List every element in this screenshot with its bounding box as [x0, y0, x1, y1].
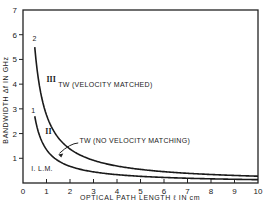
- annotation: TW (NO VELOCITY MATCHING): [79, 137, 190, 145]
- y-tick-label: 7: [13, 6, 18, 15]
- x-tick-label: 10: [254, 187, 263, 196]
- x-tick-label: 0: [21, 187, 26, 196]
- annotation: III: [47, 75, 56, 84]
- arrowhead-icon: [58, 154, 63, 158]
- x-tick-label: 2: [68, 187, 73, 196]
- x-tick-label: 9: [232, 187, 237, 196]
- annotation: II: [45, 127, 51, 136]
- annotation: TW (VELOCITY MATCHED): [58, 81, 152, 89]
- x-tick-label: 1: [44, 187, 49, 196]
- y-tick-label: 1: [13, 154, 18, 163]
- y-tick-label: 5: [13, 55, 18, 64]
- annotation: 1: [31, 107, 35, 114]
- curves: [35, 47, 258, 180]
- bandwidth-chart: 0123456789101234567 TW (VELOCITY MATCHED…: [0, 0, 270, 206]
- annotations: TW (VELOCITY MATCHED)TW (NO VELOCITY MAT…: [31, 35, 190, 172]
- y-tick-label: 2: [13, 130, 18, 139]
- curve-2-velocity-matched: [35, 47, 258, 176]
- annotation: 2: [32, 35, 36, 42]
- x-tick-label: 8: [209, 187, 214, 196]
- y-axis-label: BANDWIDTH Δf IN GHz: [2, 56, 9, 143]
- y-tick-label: 3: [13, 105, 18, 114]
- y-tick-label: 6: [13, 31, 18, 40]
- y-tick-label: 4: [13, 80, 18, 89]
- x-axis-label: OPTICAL PATH LENGTH ℓ IN cm: [80, 194, 200, 201]
- annotation: I. L.M.: [31, 165, 53, 172]
- plot-border: [23, 10, 258, 183]
- plot-frame: [23, 10, 258, 183]
